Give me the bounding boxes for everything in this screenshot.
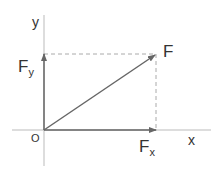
vector-fx-label: Fx [139,137,155,158]
vector-fx-label-sub: x [149,146,155,158]
vector-fy-label-sub: y [28,66,34,78]
vector-fy-label: Fy [18,57,34,78]
vector-f [44,55,155,130]
x-axis-label: x [188,132,195,148]
vector-fx-label-main: F [139,137,149,156]
origin-label: O [31,132,40,144]
vector-decomposition-diagram: y x O F Fy Fx [0,0,223,172]
vector-f-label: F [163,42,173,61]
vector-fy-label-main: F [18,57,28,76]
y-axis-label: y [32,14,39,30]
